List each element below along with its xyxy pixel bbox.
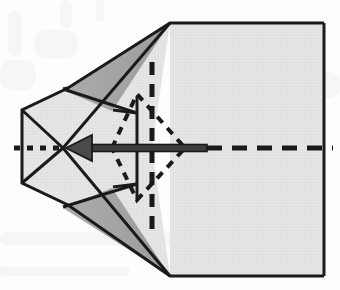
origami-figure — [0, 0, 340, 290]
arrow-shaft — [86, 145, 207, 152]
origami-diagram-root — [0, 0, 340, 290]
